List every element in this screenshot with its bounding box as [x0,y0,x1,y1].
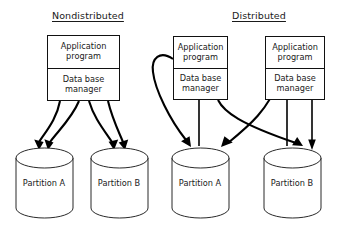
nondistributed-database-manager-cell: Data base manager [48,68,119,100]
database-manager-line2: manager [65,85,102,95]
partition-label-line1: Partition [23,178,57,188]
arrowhead-nd-b-2 [119,139,129,150]
connector-d-left-node-to-partition-b [218,100,296,143]
nondistributed-application-program-cell: Application program [48,36,119,68]
nondistributed-partition-b-label: Partition B [89,178,149,188]
nondistributed-node-box: Application program Data base manager [47,35,120,101]
diagram-canvas: Nondistributed Distributed Application p… [0,0,344,234]
database-manager-line2: manager [277,84,314,94]
arrowhead-d-cross-to-a [221,136,233,147]
arrowhead-d-left-cross [292,137,303,146]
arrowhead-nd-a-2 [44,139,53,150]
heading-distributed: Distributed [232,10,286,21]
distributed-partition-b-label: Partition B [262,178,322,188]
partition-label-line1: Partition [179,178,213,188]
nondistributed-connectors [34,101,128,150]
arrowhead-d-right-down [308,140,316,150]
partition-label-line2: A [60,178,66,188]
distributed-node-box-left: Application program Data base manager [173,36,228,100]
connector-nd-node-to-partition-a-2 [50,101,79,142]
partition-label-line2: A [216,178,222,188]
arrowhead-nd-b-1 [109,140,119,150]
distributed-right-database-manager-cell: Data base manager [266,68,324,99]
arrowhead-nd-a-1 [34,140,43,150]
application-program-line2: program [278,53,313,63]
application-program-line2: program [183,53,218,63]
connector-nd-node-to-partition-b-2 [108,101,123,142]
partition-label-line2: B [308,178,314,188]
arrowhead-d-left-loop [181,136,191,147]
distributed-left-application-program-cell: Application program [174,37,227,68]
distributed-partition-a-label: Partition A [170,178,230,188]
distributed-right-application-program-cell: Application program [266,37,324,68]
application-program-line2: program [66,52,101,62]
heading-nondistributed: Nondistributed [52,10,124,21]
partition-label-line2: B [135,178,141,188]
database-manager-line2: manager [182,84,219,94]
partition-label-line1: Partition [98,178,132,188]
distributed-left-database-manager-cell: Data base manager [174,68,227,99]
nondistributed-partition-a-label: Partition A [14,178,74,188]
connector-nd-node-to-partition-a-1 [39,101,60,142]
connector-nd-node-to-partition-b-1 [89,101,112,142]
partition-label-line1: Partition [271,178,305,188]
distributed-node-box-right: Application program Data base manager [265,36,325,100]
